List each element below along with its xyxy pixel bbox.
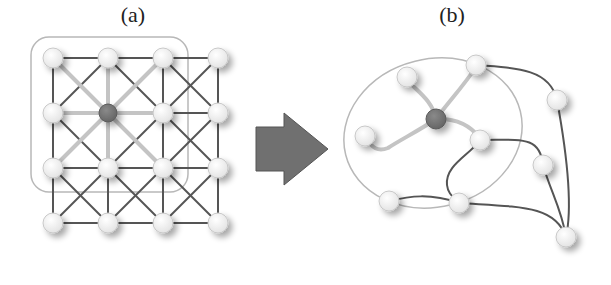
panel-b-irregular-graph — [328, 39, 576, 247]
center-node-a — [99, 104, 117, 122]
right-arrow-icon — [256, 113, 328, 185]
highlighted-edges-b — [366, 67, 480, 150]
diagram-canvas — [0, 0, 611, 285]
panel-a-grid-graph — [31, 37, 228, 233]
center-node-b — [426, 109, 446, 129]
